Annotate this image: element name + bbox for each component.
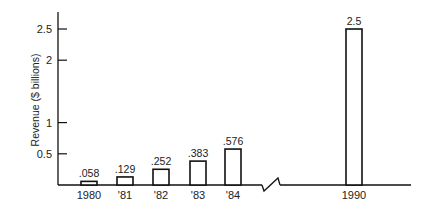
bar (225, 149, 241, 185)
revenue-bar-chart: 0.5122.5Revenue ($ billions).0581980.129… (0, 0, 428, 209)
x-category-label: 1990 (342, 189, 366, 201)
x-category-label: 1980 (77, 189, 101, 201)
bar (153, 169, 169, 185)
bar-value-label: .383 (188, 147, 209, 159)
bar (190, 161, 206, 185)
y-tick-label: 0.5 (37, 148, 52, 160)
bar-value-label: .576 (223, 135, 244, 147)
bar-value-label: .129 (115, 163, 136, 175)
x-category-label: '81 (118, 189, 132, 201)
bar (117, 177, 133, 185)
x-category-label: '83 (191, 189, 205, 201)
bar-value-label: .058 (79, 167, 100, 179)
bar-value-label: .252 (151, 155, 172, 167)
axis-break-icon (262, 178, 280, 191)
bars (81, 29, 362, 185)
bar (346, 29, 362, 185)
y-tick-label: 1 (46, 117, 52, 129)
x-category-label: '82 (154, 189, 168, 201)
x-category-label: '84 (226, 189, 240, 201)
bar-value-label: 2.5 (347, 15, 362, 27)
y-axis-label: Revenue ($ billions) (29, 54, 41, 147)
y-tick-label: 2.5 (37, 23, 52, 35)
y-tick-label: 2 (46, 54, 52, 66)
bar (81, 181, 97, 185)
